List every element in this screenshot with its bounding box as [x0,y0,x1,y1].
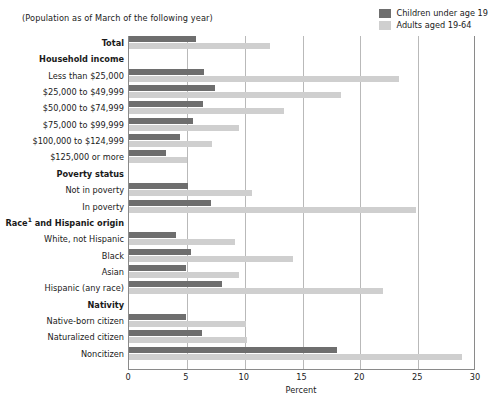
chart-subtitle: (Population as of March of the following… [22,13,213,23]
row-label: $125,000 or more [0,149,124,165]
bar-children [129,249,191,255]
x-tick-label-10: 10 [238,372,248,382]
row-label: Total [0,35,124,51]
x-tick-label-25: 25 [412,372,422,382]
bar-children [129,150,166,156]
row-label: Nativity [0,297,124,313]
bar-adults [129,272,239,278]
legend-label-children: Children under age 19 [396,8,488,18]
x-tick-label-0: 0 [125,372,130,382]
chart-row: White, not Hispanic [0,231,496,247]
bar-children [129,183,188,189]
bar-adults [129,43,270,49]
x-tick-label-20: 20 [354,372,364,382]
bar-children [129,36,196,42]
bar-children [129,118,193,124]
chart-row-header: Poverty status [0,166,496,182]
bar-adults [129,125,239,131]
bar-children [129,232,176,238]
chart-row: Noncitizen [0,346,496,362]
chart-row: $25,000 to $49,999 [0,84,496,100]
chart-row-header: Nativity [0,297,496,313]
chart-row: In poverty [0,199,496,215]
row-label: Asian [0,264,124,280]
bar-children [129,69,204,75]
chart-row: Not in poverty [0,182,496,198]
bar-adults [129,108,284,114]
bar-adults [129,321,246,327]
bar-adults [129,256,293,262]
chart-row-header: Total [0,35,496,51]
chart-row: Native-born citizen [0,313,496,329]
chart-row: Asian [0,264,496,280]
chart-rows: TotalHousehold incomeLess than $25,000$2… [0,36,496,370]
row-label: Race1 and Hispanic origin [0,215,124,231]
chart-row: Black [0,248,496,264]
bar-children [129,347,337,353]
bar-children [129,330,202,336]
bar-adults [129,354,462,360]
row-label: Not in poverty [0,182,124,198]
bar-adults [129,92,341,98]
row-label: $100,000 to $124,999 [0,133,124,149]
row-label: In poverty [0,199,124,215]
chart-row: Less than $25,000 [0,68,496,84]
bar-children [129,101,203,107]
row-label: Hispanic (any race) [0,280,124,296]
chart-row: $50,000 to $74,999 [0,100,496,116]
bar-adults [129,141,212,147]
bar-children [129,85,215,91]
row-label: Noncitizen [0,346,124,362]
legend-swatch-adults [379,21,391,30]
chart-row: $100,000 to $124,999 [0,133,496,149]
row-label: $75,000 to $99,999 [0,117,124,133]
row-label: Naturalized citizen [0,329,124,345]
bar-children [129,200,211,206]
chart-legend: Children under age 19 Adults aged 19-64 [379,8,488,30]
legend-label-adults: Adults aged 19-64 [396,20,471,30]
bar-adults [129,207,416,213]
chart-row-header: Household income [0,51,496,67]
chart-row: Hispanic (any race) [0,280,496,296]
chart-row: $125,000 or more [0,149,496,165]
legend-item-adults: Adults aged 19-64 [379,20,488,30]
bar-adults [129,239,235,245]
legend-swatch-children [379,9,391,18]
bar-adults [129,157,187,163]
row-label: Poverty status [0,166,124,182]
bar-adults [129,76,399,82]
row-label: $50,000 to $74,999 [0,100,124,116]
bar-adults [129,288,383,294]
x-tick-label-30: 30 [470,372,480,382]
bar-children [129,314,186,320]
chart-row: $75,000 to $99,999 [0,117,496,133]
bar-children [129,281,222,287]
row-label: $25,000 to $49,999 [0,84,124,100]
x-tick-label-5: 5 [183,372,188,382]
legend-item-children: Children under age 19 [379,8,488,18]
x-tick-label-15: 15 [296,372,306,382]
x-axis-label: Percent [286,385,317,395]
x-axis: Percent 051015202530 [0,370,496,411]
row-label: Native-born citizen [0,313,124,329]
row-label: White, not Hispanic [0,231,124,247]
row-label: Less than $25,000 [0,68,124,84]
chart-row-header: Race1 and Hispanic origin [0,215,496,231]
bar-adults [129,190,252,196]
footnote-marker: 1 [28,216,32,223]
bar-children [129,134,180,140]
bar-children [129,265,186,271]
chart-row: Naturalized citizen [0,329,496,345]
row-label: Household income [0,51,124,67]
row-label: Black [0,248,124,264]
bar-adults [129,337,247,343]
